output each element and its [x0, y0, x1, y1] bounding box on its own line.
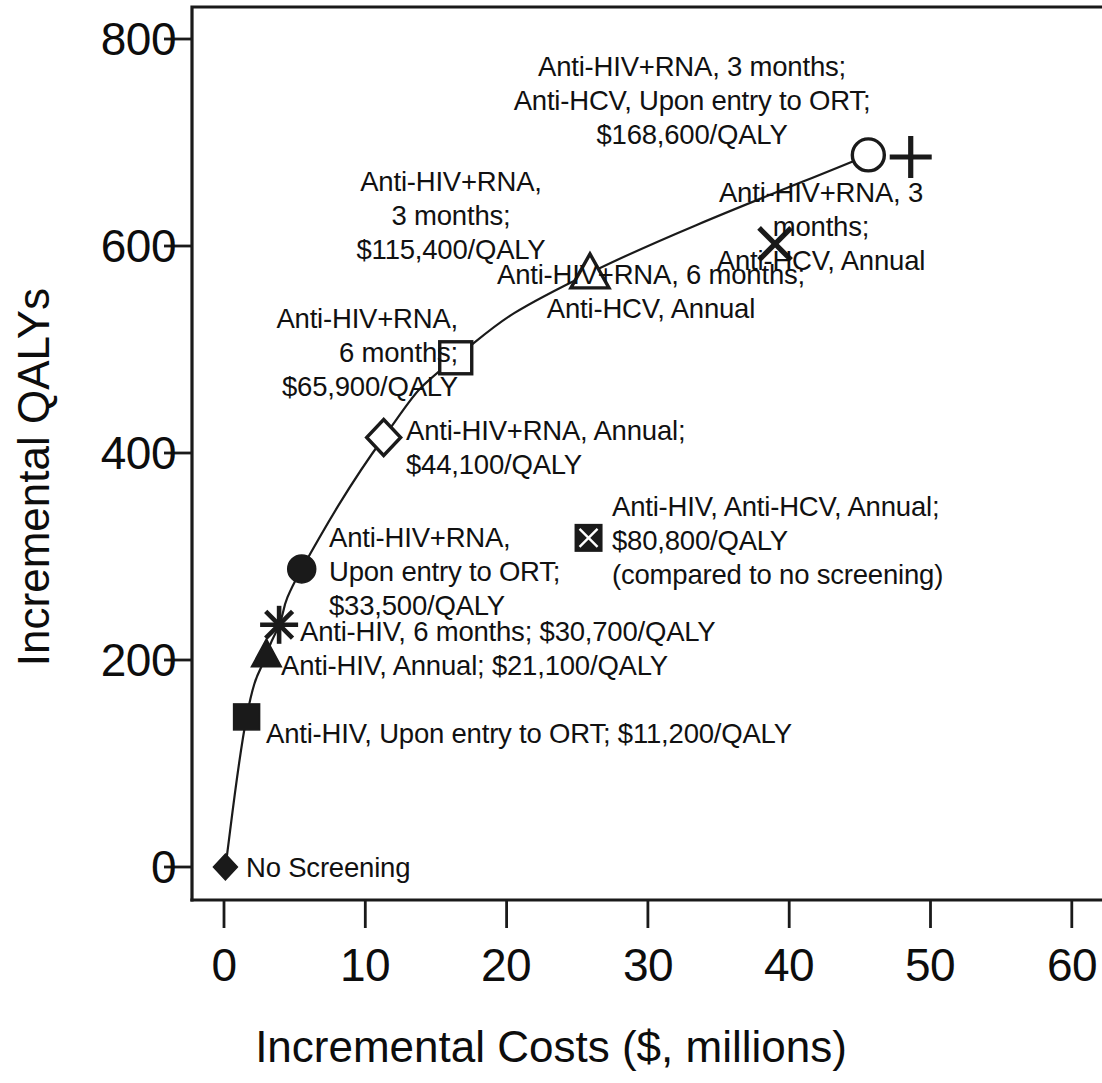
- annotation-anti-hiv-rna-annual: Anti-HIV+RNA, Annual; $44,100/QALY: [406, 414, 685, 482]
- datapoint-no-screening[interactable]: [213, 854, 237, 880]
- datapoint-anti-hiv-rna-3mo-hcv-annual[interactable]: [890, 136, 932, 178]
- ytick-label-800: 800: [60, 12, 176, 66]
- xtick-label-60: 60: [1047, 938, 1097, 992]
- annotation-anti-hiv-rna-6mo-hcv-annual: Anti-HIV+RNA, 6 months; Anti-HCV, Annual: [497, 258, 805, 326]
- ytick-label-200: 200: [60, 633, 176, 687]
- annotation-anti-hiv-anti-hcv-annual: Anti-HIV, Anti-HCV, Annual; $80,800/QALY…: [612, 490, 943, 592]
- annotation-no-screening: No Screening: [246, 851, 410, 885]
- xtick-label-50: 50: [905, 938, 955, 992]
- annotation-anti-hiv-rna-ort: Anti-HIV+RNA, Upon entry to ORT; $33,500…: [329, 521, 560, 623]
- datapoint-anti-hiv-ort[interactable]: [234, 704, 260, 730]
- datapoint-anti-hiv-rna-ort[interactable]: [288, 555, 316, 583]
- xtick-label-0: 0: [211, 938, 236, 992]
- annotation-anti-hiv-rna-3mo: Anti-HIV+RNA, 3 months; $115,400/QALY: [356, 165, 545, 267]
- annotation-anti-hiv-annual: Anti-HIV, Annual; $21,100/QALY: [281, 649, 668, 683]
- ytick-label-400: 400: [60, 426, 176, 480]
- annotation-anti-hiv-ort: Anti-HIV, Upon entry to ORT; $11,200/QAL…: [266, 717, 792, 751]
- annotation-anti-hiv-rna-3mo-hcv-ort: Anti-HIV+RNA, 3 months; Anti-HCV, Upon e…: [514, 50, 871, 152]
- xtick-label-30: 30: [623, 938, 673, 992]
- y-axis-title: Incremental QALYs: [9, 217, 59, 737]
- x-axis-title: Incremental Costs ($, millions): [0, 1022, 1102, 1072]
- ytick-label-600: 600: [60, 219, 176, 273]
- ytick-label-0: 0: [60, 840, 176, 894]
- chart-figure: 800 600 400 200 0 0 10 20 30 40 50 60 In…: [0, 0, 1102, 1083]
- datapoint-anti-hiv-anti-hcv-annual[interactable]: [576, 525, 602, 551]
- datapoint-anti-hiv-rna-annual[interactable]: [367, 419, 401, 455]
- xtick-label-40: 40: [764, 938, 814, 992]
- xtick-label-20: 20: [481, 938, 531, 992]
- xtick-label-10: 10: [340, 938, 390, 992]
- annotation-anti-hiv-rna-6mo: Anti-HIV+RNA, 6 months; $65,900/QALY: [168, 302, 458, 404]
- datapoint-anti-hiv-6mo[interactable]: [260, 606, 298, 644]
